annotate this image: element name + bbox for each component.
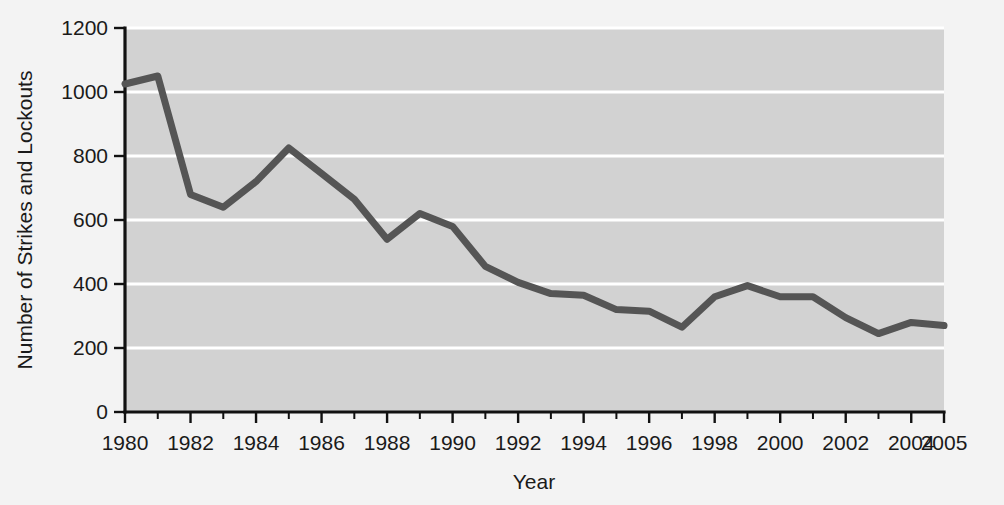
x-tick-label: 1994 [560,431,607,454]
y-tick-label: 400 [73,272,108,295]
chart-figure: 020040060080010001200 198019821984198619… [0,0,1004,505]
y-tick-label: 800 [73,144,108,167]
x-tick-label: 2000 [757,431,804,454]
x-tick-label: 2005 [921,431,968,454]
x-tick-label: 1980 [102,431,149,454]
x-tick-label: 1982 [167,431,214,454]
x-tick-label: 1992 [495,431,542,454]
line-chart: 020040060080010001200 198019821984198619… [0,0,1004,505]
y-tick-label: 1000 [61,80,108,103]
y-tick-label: 1200 [61,16,108,39]
y-axis-title: Number of Strikes and Lockouts [13,71,36,370]
y-tick-label: 200 [73,336,108,359]
x-tick-label: 1990 [429,431,476,454]
x-tick-label: 1984 [233,431,280,454]
x-axis-title: Year [513,470,555,493]
x-tick-label: 1988 [364,431,411,454]
y-tick-label: 600 [73,208,108,231]
x-tick-label: 1996 [626,431,673,454]
x-tick-label: 1986 [298,431,345,454]
x-tick-label: 2002 [822,431,869,454]
x-tick-label: 1998 [691,431,738,454]
y-tick-label: 0 [96,400,108,423]
